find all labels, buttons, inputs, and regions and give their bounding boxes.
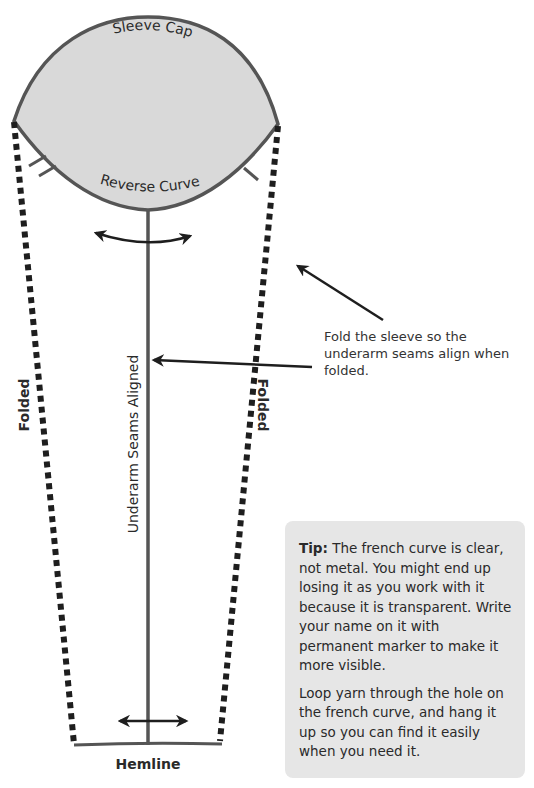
tip-paragraph-2: Loop yarn through the hole on the french… xyxy=(299,684,515,762)
folded-edge-right xyxy=(220,126,278,741)
underarm-seams-label: Underarm Seams Aligned xyxy=(125,355,141,534)
tip-paragraph-1: Tip: The french curve is clear, not meta… xyxy=(299,539,515,676)
tip-text-1: The french curve is clear, not metal. Yo… xyxy=(299,540,511,673)
hemline-line xyxy=(74,743,222,745)
arrow-to-folded-edge-icon xyxy=(298,266,383,320)
arrow-to-seam-icon xyxy=(154,360,312,367)
tip-label: Tip: xyxy=(299,540,328,556)
folded-edge-left xyxy=(14,122,74,744)
folded-right-label: Folded xyxy=(255,379,271,432)
curved-double-arrow-icon xyxy=(96,233,190,242)
fold-instruction-note: Fold the sleeve so the underarm seams al… xyxy=(324,328,524,379)
tip-box: Tip: The french curve is clear, not meta… xyxy=(285,521,525,778)
folded-left-label: Folded xyxy=(16,379,32,432)
hemline-label: Hemline xyxy=(116,756,181,772)
